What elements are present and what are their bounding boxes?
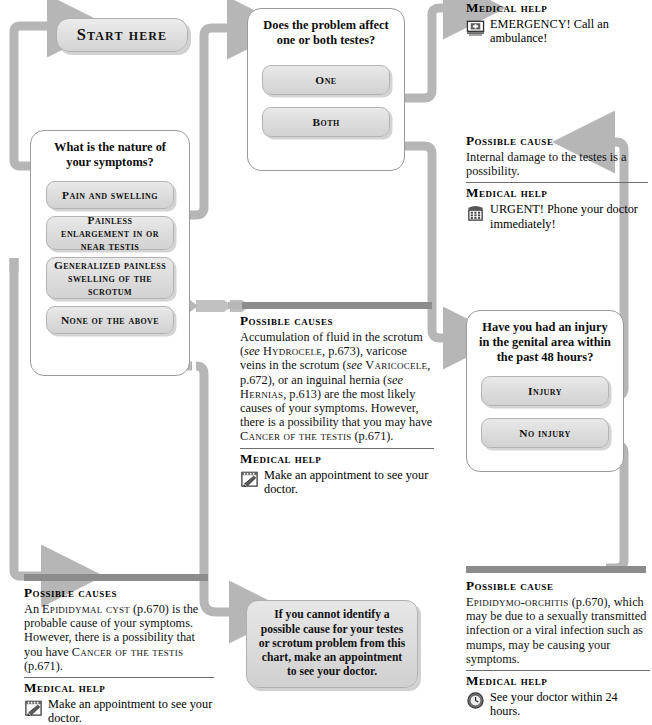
conn-none-to-advice <box>160 366 238 612</box>
conn-none-path <box>160 366 212 568</box>
divider <box>24 677 214 678</box>
question-box-nature: What is the nature of your symptoms? Pai… <box>30 130 190 376</box>
possible-causes-heading: Possible causes <box>240 313 434 329</box>
possible-causes-text: An Epididymal cyst (p.670) is the probab… <box>24 602 214 673</box>
divider <box>240 448 434 449</box>
medical-help-text: See your doctor within 24 hours. <box>490 690 650 718</box>
telephone-icon <box>466 203 485 222</box>
outcome-internal-damage: Possible cause Internal damage to the te… <box>466 133 648 231</box>
medical-help-text: URGENT! Phone your doctor immediately! <box>490 202 648 230</box>
medical-help-heading: Medical help <box>466 673 650 689</box>
divider <box>466 670 650 671</box>
possible-causes-text: Accumulation of fluid in the scrotum (se… <box>240 330 434 444</box>
option-both[interactable]: Both <box>262 107 390 137</box>
appointment-icon <box>24 698 43 717</box>
option-no-injury[interactable]: No injury <box>481 418 609 448</box>
conn-start-in <box>14 26 56 75</box>
start-here-button[interactable]: Start here <box>56 18 188 52</box>
outcome-epididymal-cyst: Possible causes An Epididymal cyst (p.67… <box>24 585 214 725</box>
possible-cause-text: Epididymo-orchitis (p.670), which may be… <box>466 595 650 666</box>
clock-icon <box>466 691 485 710</box>
outcome-emergency: Medical help EMERGENCY! Call an ambulanc… <box>466 0 648 45</box>
option-pain-and-swelling[interactable]: Pain and swelling <box>46 181 174 209</box>
conn-right-to-injury <box>432 200 452 338</box>
medical-help-text: Make an appointment to see your doctor. <box>48 697 214 725</box>
option-painless-enlargement[interactable]: Painless enlargement in or near testis <box>46 216 174 250</box>
no-cause-advice-box: If you cannot identify a possible cause … <box>246 600 418 688</box>
medical-help-heading: Medical help <box>466 0 648 16</box>
medical-help-heading: Medical help <box>24 680 214 696</box>
conn-one-to-emergency <box>400 8 452 98</box>
question-title-injury: Have you had an injury in the genital ar… <box>467 311 623 368</box>
option-injury[interactable]: Injury <box>481 376 609 406</box>
possible-cause-heading: Possible cause <box>466 578 650 594</box>
appointment-icon <box>240 469 259 488</box>
possible-causes-heading: Possible causes <box>24 585 214 601</box>
question-title-sides: Does the problem affect one or both test… <box>248 9 404 51</box>
question-title-nature: What is the nature of your symptoms? <box>31 131 189 173</box>
option-generalized-swelling[interactable]: Generalized painless swelling of the scr… <box>46 257 174 299</box>
option-none-of-the-above[interactable]: None of the above <box>46 306 174 334</box>
ambulance-icon <box>466 18 485 37</box>
medical-help-heading: Medical help <box>240 451 434 467</box>
possible-cause-text: Internal damage to the testes is a possi… <box>466 150 648 178</box>
possible-cause-heading: Possible cause <box>466 133 648 149</box>
medical-help-text: EMERGENCY! Call an ambulance! <box>490 17 648 45</box>
question-box-sides: Does the problem affect one or both test… <box>247 8 405 171</box>
medical-help-heading: Medical help <box>466 185 648 201</box>
outcome-scrotum-fluid: Possible causes Accumulation of fluid in… <box>240 313 434 496</box>
outcome-epididymo-orchitis: Possible cause Epididymo-orchitis (p.670… <box>466 578 650 718</box>
medical-help-text: Make an appointment to see your doctor. <box>264 468 434 496</box>
divider <box>466 182 648 183</box>
option-one[interactable]: One <box>262 65 390 95</box>
question-box-injury: Have you had an injury in the genital ar… <box>466 310 624 472</box>
